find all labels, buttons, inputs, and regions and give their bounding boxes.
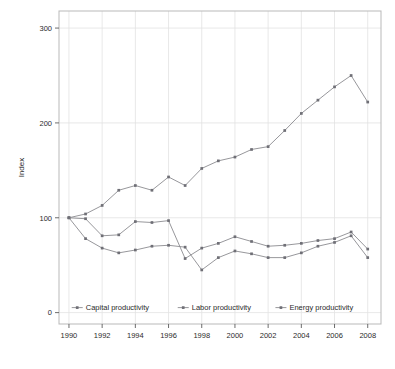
series-data-point xyxy=(167,176,170,179)
series-data-point xyxy=(101,204,104,207)
legend-marker-icon xyxy=(182,306,185,309)
series-data-point xyxy=(283,244,286,247)
x-tick-label: 2002 xyxy=(260,331,277,340)
line-chart: 0100200300 19901992199419961998200020022… xyxy=(0,0,395,369)
legend-label: Energy productivity xyxy=(289,303,353,312)
legend-label: Capital productivity xyxy=(86,303,150,312)
y-tick-label: 200 xyxy=(39,119,52,128)
legend-item[interactable]: Capital productivity xyxy=(72,303,150,312)
y-tick-label: 300 xyxy=(39,24,52,33)
x-tick-label: 1992 xyxy=(94,331,111,340)
y-tick-label-layer: 0100200300 xyxy=(39,24,52,318)
series-data-point xyxy=(317,239,320,242)
series-data-point xyxy=(317,245,320,248)
series-data-point xyxy=(250,148,253,151)
series-data-point xyxy=(217,242,220,245)
legend-item[interactable]: Energy productivity xyxy=(275,303,353,312)
series-data-point xyxy=(167,219,170,222)
series-data-point xyxy=(267,245,270,248)
series-data-point xyxy=(333,86,336,89)
series-data-point xyxy=(84,213,87,216)
series-capital-productivity xyxy=(68,216,369,259)
x-tick-label: 2000 xyxy=(227,331,244,340)
series-data-point xyxy=(317,99,320,102)
series-data-point xyxy=(250,240,253,243)
series-data-point xyxy=(234,235,237,238)
series-data-point xyxy=(200,247,203,250)
series-data-point xyxy=(350,74,353,77)
series-data-point xyxy=(366,101,369,104)
x-tick-label: 1998 xyxy=(193,331,210,340)
series-line xyxy=(69,76,368,218)
plot-frame-layer xyxy=(59,11,381,324)
series-data-point xyxy=(250,252,253,255)
series-data-point xyxy=(151,221,154,224)
series-data-point xyxy=(184,246,187,249)
series-energy-productivity xyxy=(68,74,369,219)
series-data-point xyxy=(366,248,369,251)
series-data-point xyxy=(117,252,120,255)
series-data-point xyxy=(84,217,87,220)
series-data-point xyxy=(267,145,270,148)
series-data-point xyxy=(184,184,187,187)
series-data-point xyxy=(117,233,120,236)
series-data-point xyxy=(267,256,270,259)
series-data-point xyxy=(68,216,71,219)
series-data-point xyxy=(333,241,336,244)
series-data-point xyxy=(283,129,286,132)
data-series-layer xyxy=(68,74,369,271)
series-data-point xyxy=(350,231,353,234)
series-data-point xyxy=(366,256,369,259)
series-data-point xyxy=(184,257,187,260)
series-data-point xyxy=(151,245,154,248)
series-data-point xyxy=(217,256,220,259)
chart-container: 0100200300 19901992199419961998200020022… xyxy=(0,0,395,369)
series-data-point xyxy=(300,112,303,115)
series-data-point xyxy=(217,160,220,163)
series-data-point xyxy=(84,237,87,240)
series-data-point xyxy=(134,220,137,223)
y-tick-label: 100 xyxy=(39,214,52,223)
series-data-point xyxy=(134,249,137,252)
series-data-point xyxy=(101,247,104,250)
x-tick-label: 2004 xyxy=(293,331,310,340)
legend-label: Labor productivity xyxy=(192,303,251,312)
legend-marker-icon xyxy=(280,306,283,309)
series-line xyxy=(69,218,368,259)
x-tick-label: 2008 xyxy=(359,331,376,340)
series-data-point xyxy=(234,156,237,159)
series-data-point xyxy=(134,184,137,187)
x-tick-label: 2006 xyxy=(326,331,343,340)
series-data-point xyxy=(350,234,353,237)
series-data-point xyxy=(300,252,303,255)
series-data-point xyxy=(200,269,203,272)
series-data-point xyxy=(117,189,120,192)
series-data-point xyxy=(333,237,336,240)
series-data-point xyxy=(151,189,154,192)
plot-frame xyxy=(59,11,381,324)
x-tick-label-layer: 1990199219941996199820002002200420062008 xyxy=(61,331,376,340)
legend-marker-icon xyxy=(76,306,79,309)
series-data-point xyxy=(300,242,303,245)
legend: Capital productivityLabor productivityEn… xyxy=(72,303,354,312)
x-tick-label: 1994 xyxy=(127,331,144,340)
y-tick-label: 0 xyxy=(48,308,52,317)
x-tick-label: 1990 xyxy=(61,331,78,340)
series-data-point xyxy=(234,250,237,253)
series-data-point xyxy=(283,256,286,259)
series-data-point xyxy=(101,234,104,237)
x-tick-label: 1996 xyxy=(160,331,177,340)
series-data-point xyxy=(167,244,170,247)
series-data-point xyxy=(200,167,203,170)
y-axis-title: Index xyxy=(17,158,26,178)
legend-item[interactable]: Labor productivity xyxy=(178,303,251,312)
grid-layer xyxy=(59,11,381,324)
